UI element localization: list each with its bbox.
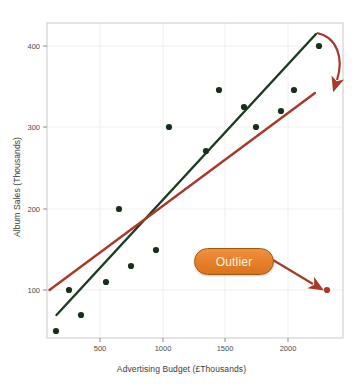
data-point <box>103 279 109 285</box>
data-point <box>216 87 222 93</box>
plot-canvas <box>0 0 363 386</box>
ytick-label-400: 400 <box>0 42 40 51</box>
y-axis-label: Album Sales (Thousands) <box>12 112 22 262</box>
data-point <box>153 247 159 253</box>
xtick-label-1500: 1500 <box>205 344 245 353</box>
data-point <box>78 312 84 318</box>
data-point <box>166 124 172 130</box>
scatter-plot-figure: 500 1000 1500 2000 400 300 200 100 Adver… <box>0 0 363 386</box>
data-point <box>116 206 122 212</box>
data-point <box>128 263 134 269</box>
data-point <box>53 328 59 334</box>
data-point <box>278 108 284 114</box>
outlier-data-point <box>324 287 330 293</box>
x-axis-label: Advertising Budget (£Thousands) <box>0 364 363 374</box>
plot-area-background <box>47 23 343 338</box>
outlier-callout-label: Outlier <box>216 255 253 269</box>
outlier-callout-badge: Outlier <box>194 248 274 275</box>
data-point <box>316 43 322 49</box>
ytick-label-100: 100 <box>0 286 40 295</box>
data-point <box>203 148 209 154</box>
data-point <box>253 124 259 130</box>
data-point <box>241 104 247 110</box>
xtick-label-2000: 2000 <box>268 344 308 353</box>
data-point <box>291 87 297 93</box>
xtick-label-500: 500 <box>80 344 120 353</box>
data-point <box>66 287 72 293</box>
xtick-label-1000: 1000 <box>143 344 183 353</box>
